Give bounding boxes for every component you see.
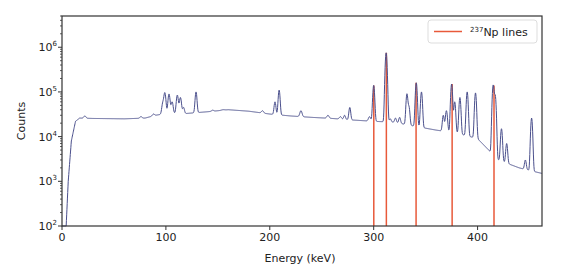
- spectrum-chart: 0100200300400 102103104105106 Energy (ke…: [0, 0, 562, 273]
- x-tick-label: 400: [467, 231, 488, 244]
- y-tick-label: 106: [39, 40, 58, 54]
- axes-frame: [62, 16, 542, 226]
- x-tick-label: 200: [259, 231, 280, 244]
- x-axis-label: Energy (keV): [265, 252, 336, 265]
- x-tick-label: 100: [155, 231, 176, 244]
- legend: 237Np lines: [428, 20, 537, 43]
- legend-superscript: 237: [470, 26, 483, 34]
- y-tick-label: 104: [39, 130, 58, 144]
- x-tick-label: 300: [363, 231, 384, 244]
- y-tick-label: 102: [39, 219, 57, 233]
- y-tick-label: 103: [39, 174, 57, 188]
- x-axis-ticks: 0100200300400: [59, 226, 489, 244]
- chart-svg: 0100200300400 102103104105106 Energy (ke…: [0, 0, 562, 273]
- x-tick-label: 0: [59, 231, 66, 244]
- y-axis-label: Counts: [15, 102, 28, 141]
- y-tick-label: 105: [39, 85, 57, 99]
- y-axis-ticks: 102103104105106: [39, 16, 62, 233]
- legend-text: Np lines: [483, 26, 528, 39]
- plot-area: [62, 53, 542, 226]
- spectrum-line: [62, 53, 542, 226]
